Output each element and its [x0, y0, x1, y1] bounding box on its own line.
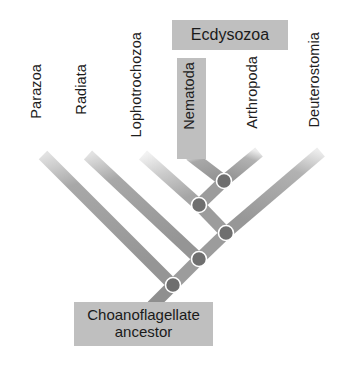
- node-eumetazoa: [192, 252, 207, 267]
- taxon-label-arthropoda: Arthropoda: [245, 56, 260, 129]
- node-bilateria: [219, 226, 234, 241]
- taxon-label-parazoa: Parazoa: [29, 64, 44, 119]
- taxon-label-radiata: Radiata: [74, 64, 89, 115]
- cladogram-figure: Ecdysozoa Parazoa Radiata Lophotrochozoa…: [0, 0, 347, 367]
- clade-label-ecdysozoa-text: Ecdysozoa: [191, 26, 269, 44]
- root-ancestor-label: Choanoflagellate ancestor: [74, 302, 213, 346]
- branch-radiata: [88, 155, 199, 259]
- root-ancestor-line2: ancestor: [115, 324, 173, 341]
- taxon-label-nematoda: Nematoda: [182, 62, 197, 130]
- clade-label-ecdysozoa: Ecdysozoa: [172, 20, 288, 50]
- node-lophotrochozoa: [192, 198, 207, 213]
- root-ancestor-line1: Choanoflagellate: [87, 307, 200, 324]
- node-root: [166, 278, 181, 293]
- taxon-label-lophotrochozoa: Lophotrochozoa: [129, 32, 144, 137]
- node-ecdysozoa: [217, 174, 232, 189]
- taxon-label-deuterostomia: Deuterostomia: [307, 32, 322, 128]
